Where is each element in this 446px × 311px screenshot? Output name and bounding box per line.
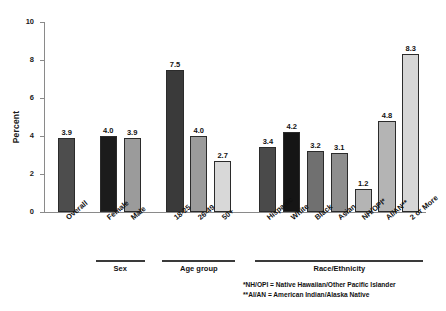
footnotes: *NH/OPI = Native Hawaiian/Other Pacific … [243,280,443,299]
footnote-nhopi: *NH/OPI = Native Hawaiian/Other Pacific … [243,280,443,290]
bar: 4.0 [100,136,117,212]
y-tick-label: 8 [0,56,34,64]
bar: 7.5 [166,70,183,213]
bar: 2.7 [214,161,231,212]
bar: 8.3 [402,54,419,212]
bar-value-label: 3.9 [61,128,71,137]
y-tick-label: 6 [0,94,34,102]
group-bracket-line [255,260,423,262]
y-tick-label: 0 [0,208,34,216]
bar-chart: Percent 0246810 3.94.03.97.54.02.73.44.2… [0,0,446,311]
footnote-aian: **AI/AN = American Indian/Alaska Native [243,290,443,300]
bar: 3.4 [259,147,276,212]
y-tick-label: 2 [0,170,34,178]
plot-area: 3.94.03.97.54.02.73.44.23.23.11.24.88.3 [45,22,426,212]
bar-value-label: 1.2 [358,179,368,188]
bar-value-label: 2.7 [217,151,227,160]
group-label: Age group [162,264,235,273]
bar-value-label: 3.9 [127,128,137,137]
bar-value-label: 8.3 [406,44,416,53]
group-label: Race/Ethnicity [255,264,423,273]
bar-value-label: 3.2 [310,141,320,150]
bar-value-label: 7.5 [170,60,180,69]
bar-value-label: 4.0 [103,126,113,135]
bar: 3.9 [58,138,75,212]
group-bracket-line [96,260,145,262]
y-axis-title: Percent [8,92,24,162]
bar: 4.0 [190,136,207,212]
bar: 3.1 [331,153,348,212]
y-tick-label: 4 [0,132,34,140]
y-tick-mark [40,212,45,213]
bar-value-label: 4.0 [194,126,204,135]
group-label: Sex [96,264,145,273]
bar: 3.2 [307,151,324,212]
bar-value-label: 3.1 [334,143,344,152]
bar-value-label: 3.4 [263,137,273,146]
bar-value-label: 4.8 [382,111,392,120]
group-bracket-line [162,260,235,262]
y-tick-label: 10 [0,18,34,26]
bar-value-label: 4.2 [286,122,296,131]
